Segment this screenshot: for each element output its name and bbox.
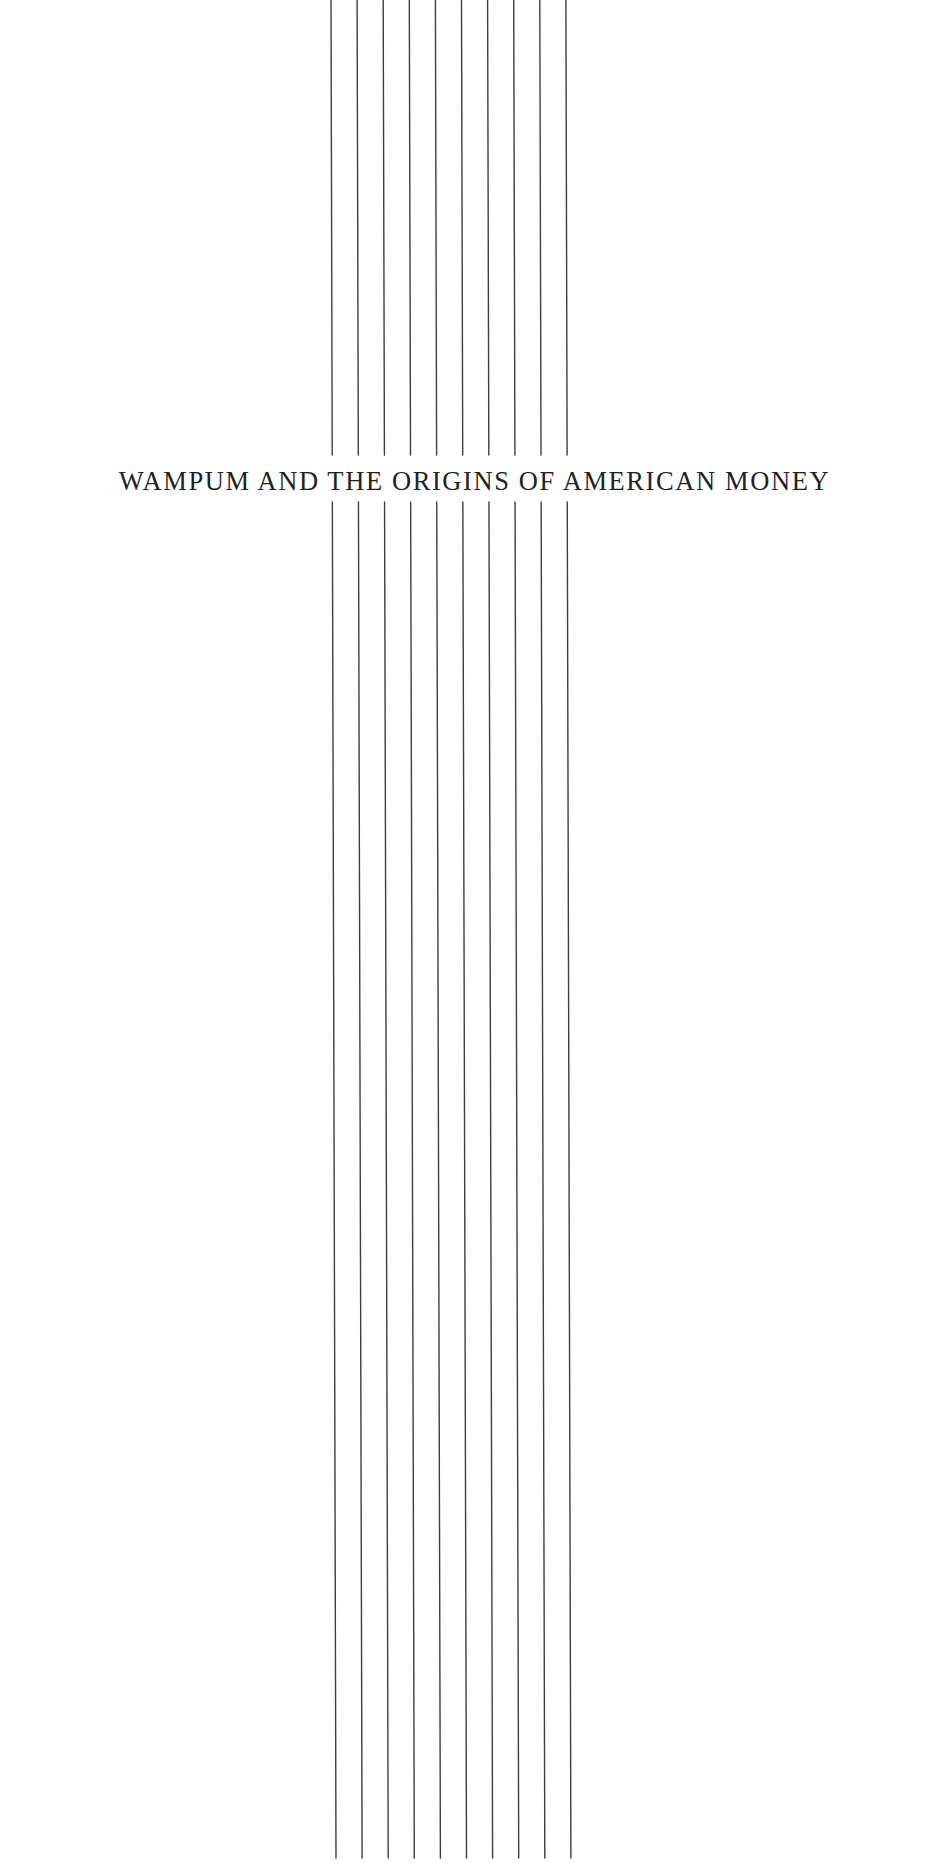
string-line-6-lower <box>463 502 467 1858</box>
string-line-3-upper <box>383 0 384 455</box>
string-line-1-lower <box>332 502 336 1858</box>
string-line-10-lower <box>567 502 571 1858</box>
string-line-9-upper <box>540 0 541 455</box>
book-title: WAMPUM AND THE ORIGINS OF AMERICAN MONEY <box>0 461 932 501</box>
string-line-2-lower <box>358 502 362 1858</box>
string-line-5-upper <box>435 0 436 455</box>
wampum-strings-decoration <box>0 0 932 1863</box>
string-line-3-lower <box>385 502 389 1858</box>
string-line-8-upper <box>514 0 515 455</box>
string-line-4-lower <box>411 502 415 1858</box>
half-title-page: WAMPUM AND THE ORIGINS OF AMERICAN MONEY <box>0 0 932 1863</box>
string-line-4-upper <box>409 0 410 455</box>
string-line-1-upper <box>331 0 332 455</box>
string-line-9-lower <box>541 502 545 1858</box>
string-line-8-lower <box>515 502 519 1858</box>
string-line-10-upper <box>566 0 567 455</box>
string-line-5-lower <box>437 502 441 1858</box>
string-line-2-upper <box>357 0 358 455</box>
string-line-6-upper <box>462 0 463 455</box>
string-line-7-lower <box>489 502 493 1858</box>
string-line-7-upper <box>488 0 489 455</box>
